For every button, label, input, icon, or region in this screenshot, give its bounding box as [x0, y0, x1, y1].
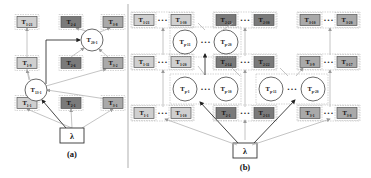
task-box-T1-9: T1-9 — [15, 56, 39, 71]
task-circle-Tp-11: Tp-11 — [259, 77, 283, 101]
task-box-group: T3-1T3-8• • • — [297, 105, 360, 121]
task-circle-Tp-1: Tp-1 — [173, 77, 197, 101]
ellipsis: • • • — [158, 110, 167, 116]
task-box-group: T2-14T2-22• • • — [213, 54, 277, 70]
task-box-T3-20: T3-20 — [335, 13, 359, 28]
task-box-T1-21: T1-21 — [15, 15, 39, 30]
ellipsis: • • • — [241, 110, 250, 116]
panel-a-strong-edges — [42, 40, 80, 128]
task-box-T3-1: T3-1 — [101, 96, 125, 111]
task-box-T2-13: T2-13 — [252, 106, 276, 121]
task-box-T2-1: T2-1 — [59, 96, 83, 111]
task-circle-T20-1: T20-1 — [81, 29, 103, 51]
task-box-group: T1-1T1-10• • • — [131, 105, 194, 121]
ellipsis: • • • — [241, 17, 250, 23]
caption-a: (a) — [67, 149, 77, 159]
task-circle-group: Tp-11Tp-20• • • — [256, 74, 328, 104]
lambda-input-node: λ — [60, 128, 84, 143]
task-box-group: T1-21T1-30• • • — [131, 12, 194, 28]
svg-text:λ: λ — [70, 132, 74, 141]
task-box-group: T3-9T3-17• • • — [297, 54, 360, 70]
task-box-T3-17: T3-17 — [335, 55, 359, 70]
task-circle-group: Tp-11Tp-20• • • — [170, 27, 241, 57]
ellipsis: • • • — [288, 86, 297, 92]
task-box-T1-1: T1-1 — [132, 106, 156, 121]
panel-a: T1-21T2-4T3-8T1-9T2-6T3-2T1-1T2-1T3-1T13… — [15, 15, 125, 160]
task-box-T2-21: T2-21 — [214, 13, 238, 28]
ellipsis: • • • — [201, 86, 210, 92]
ellipsis: • • • — [201, 39, 210, 45]
task-box-T1-10: T1-10 — [169, 106, 193, 121]
task-box-T1-11: T1-11 — [132, 55, 156, 70]
task-box-T3-10: T3-10 — [298, 13, 322, 28]
task-box-T3-2: T3-2 — [101, 56, 125, 71]
ellipsis: • • • — [158, 59, 167, 65]
task-box-group: T3-10T3-20• • • — [297, 12, 360, 28]
task-box-T2-1: T2-1 — [214, 106, 238, 121]
diagram-figure: T1-21T2-4T3-8T1-9T2-6T3-2T1-1T2-1T3-1T13… — [0, 0, 371, 178]
task-box-T3-1: T3-1 — [298, 106, 322, 121]
task-box-T1-30: T1-30 — [169, 13, 193, 28]
task-circle-Tp-20: Tp-20 — [214, 30, 238, 54]
task-box-T3-9: T3-9 — [298, 55, 322, 70]
task-circle-group: Tp-1Tp-10• • • — [170, 74, 241, 104]
task-box-T2-6: T2-6 — [59, 56, 83, 71]
task-circle-T13-1: T13-1 — [25, 79, 47, 101]
task-box-group: T2-1T2-13• • • — [213, 105, 277, 121]
ellipsis: • • • — [241, 59, 250, 65]
caption-b: (b) — [240, 162, 251, 172]
task-circle-Tp-20: Tp-20 — [301, 77, 325, 101]
task-circle-Tp-10: Tp-10 — [214, 77, 238, 101]
task-box-group: T2-21T2-30• • • — [213, 12, 277, 28]
task-box-group: T1-11T1-20• • • — [131, 54, 194, 70]
ellipsis: • • • — [324, 17, 333, 23]
task-box-T2-4: T2-4 — [59, 15, 83, 30]
ellipsis: • • • — [324, 110, 333, 116]
task-circle-Tp-11: Tp-11 — [173, 30, 197, 54]
task-box-T2-22: T2-22 — [252, 55, 276, 70]
task-box-T1-21: T1-21 — [132, 13, 156, 28]
ellipsis: • • • — [158, 17, 167, 23]
task-box-T3-8: T3-8 — [335, 106, 359, 121]
ellipsis: • • • — [324, 59, 333, 65]
task-box-T3-8: T3-8 — [101, 15, 125, 30]
task-box-T2-30: T2-30 — [252, 13, 276, 28]
panel-b: T1-21T1-30• • •T2-21T2-30• • •T3-10T3-20… — [131, 12, 360, 172]
svg-text:λ: λ — [243, 147, 247, 156]
